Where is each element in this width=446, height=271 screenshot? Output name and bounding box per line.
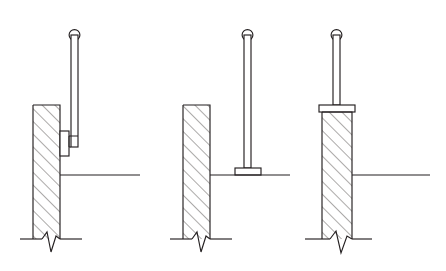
vertical-rod — [244, 35, 251, 168]
technical-drawing-canvas — [0, 0, 446, 271]
wall-section — [322, 112, 352, 239]
vertical-rod — [333, 35, 340, 105]
vertical-rod — [71, 35, 78, 147]
railing-mounting-details-drawing — [0, 0, 446, 271]
cap-plate — [319, 105, 355, 112]
base-plate — [235, 168, 261, 175]
wall-section — [183, 105, 210, 239]
bracket-plate — [60, 131, 69, 156]
wall-section — [33, 105, 60, 239]
